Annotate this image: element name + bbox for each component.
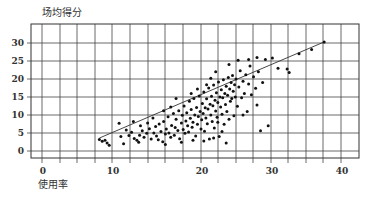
data-point	[209, 103, 212, 106]
data-point	[101, 140, 104, 143]
data-point	[141, 129, 144, 132]
data-point	[211, 104, 214, 107]
data-point	[137, 141, 140, 144]
data-point	[225, 142, 228, 145]
data-point	[247, 58, 250, 61]
data-point	[167, 132, 170, 135]
data-point	[202, 90, 205, 93]
data-point	[220, 88, 223, 91]
data-point	[196, 123, 199, 126]
data-point	[152, 132, 155, 135]
data-point	[230, 81, 233, 84]
data-point	[237, 85, 240, 88]
data-point	[178, 137, 181, 140]
data-point	[196, 88, 199, 91]
data-point	[108, 144, 111, 147]
axis-ticks: 051015202530010203040	[11, 38, 348, 176]
data-point	[122, 142, 125, 145]
data-point	[204, 106, 207, 109]
data-point	[277, 67, 280, 70]
data-point	[127, 134, 130, 137]
data-point	[244, 73, 247, 76]
data-point	[184, 120, 187, 123]
data-point	[191, 121, 194, 124]
data-point	[189, 117, 192, 120]
data-point	[271, 57, 274, 60]
data-point	[164, 133, 167, 136]
data-point	[231, 74, 234, 77]
data-point	[323, 40, 326, 43]
data-point	[212, 84, 215, 87]
data-point	[159, 130, 162, 133]
data-point	[207, 107, 210, 110]
data-point	[202, 112, 205, 115]
data-point	[232, 90, 235, 93]
data-point	[264, 58, 267, 61]
data-point	[214, 99, 217, 102]
data-point	[224, 103, 227, 106]
svg-text:0: 0	[40, 166, 46, 176]
data-point	[205, 97, 208, 100]
data-point	[130, 131, 133, 134]
data-point	[154, 125, 157, 128]
data-point	[138, 134, 141, 137]
svg-text:0: 0	[18, 146, 24, 156]
data-point	[209, 77, 212, 80]
data-point	[223, 92, 226, 95]
svg-text:40: 40	[336, 166, 349, 176]
grid-lines	[31, 24, 359, 158]
svg-text:10: 10	[107, 166, 120, 176]
data-point	[180, 141, 183, 144]
data-point	[190, 108, 193, 111]
data-point	[221, 130, 224, 133]
data-point	[239, 69, 242, 72]
data-point	[210, 95, 213, 98]
data-point	[230, 97, 233, 100]
data-point	[194, 134, 197, 137]
data-point	[203, 130, 206, 133]
data-point	[187, 130, 190, 133]
data-point	[175, 118, 178, 121]
data-point	[228, 118, 231, 121]
svg-text:30: 30	[11, 38, 24, 48]
data-point	[221, 96, 224, 99]
data-point	[200, 118, 203, 121]
data-point	[148, 127, 151, 130]
data-point	[254, 87, 257, 90]
data-point	[256, 56, 259, 59]
svg-text:30: 30	[266, 166, 279, 176]
trend-line	[99, 42, 324, 138]
data-point	[216, 116, 219, 119]
data-point	[155, 134, 158, 137]
data-point	[259, 129, 262, 132]
data-point	[169, 106, 172, 109]
data-point	[211, 120, 214, 123]
data-point	[242, 80, 245, 83]
data-point	[125, 129, 128, 132]
data-point	[242, 114, 245, 117]
data-point	[201, 102, 204, 105]
data-point	[118, 122, 121, 125]
data-point	[197, 115, 200, 118]
data-point	[192, 97, 195, 100]
data-point	[236, 105, 239, 108]
data-point	[169, 136, 172, 139]
data-point	[190, 92, 193, 95]
data-point	[191, 139, 194, 142]
data-point	[139, 124, 142, 127]
data-point	[165, 128, 168, 131]
svg-text:20: 20	[11, 74, 24, 84]
data-point	[170, 124, 173, 127]
data-point	[157, 138, 160, 141]
svg-text:20: 20	[196, 166, 209, 176]
scatter-plot: 051015202530010203040	[0, 0, 376, 199]
data-point	[208, 138, 211, 141]
data-point	[246, 110, 249, 113]
data-point	[207, 87, 210, 90]
data-point	[204, 116, 207, 119]
data-point	[198, 94, 201, 97]
svg-text:5: 5	[18, 128, 24, 138]
data-point	[191, 126, 194, 129]
data-point	[183, 132, 186, 135]
data-point	[228, 63, 231, 66]
